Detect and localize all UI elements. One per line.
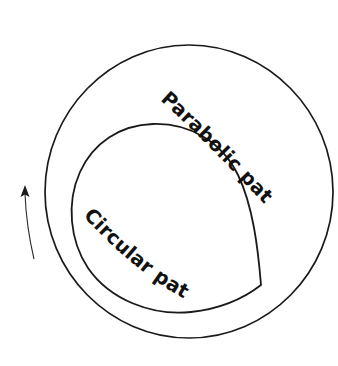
label-parabolic-path-group: Parabolic path — [0, 0, 278, 208]
diagram-canvas: Parabolic path Circular path — [0, 0, 338, 366]
parabolic-path-label-text: Parabolic path — [0, 0, 278, 208]
circular-path-label-text: Circular path — [0, 0, 193, 303]
circular-path-label: Circular path — [0, 0, 193, 303]
label-circular-path-group: Circular path — [0, 0, 193, 303]
outer-circle-orbit — [45, 45, 333, 338]
direction-arrow-shaft — [25, 194, 34, 259]
parabolic-path-label: Parabolic path — [0, 0, 278, 208]
path-diagram-svg: Parabolic path Circular path — [0, 0, 338, 366]
